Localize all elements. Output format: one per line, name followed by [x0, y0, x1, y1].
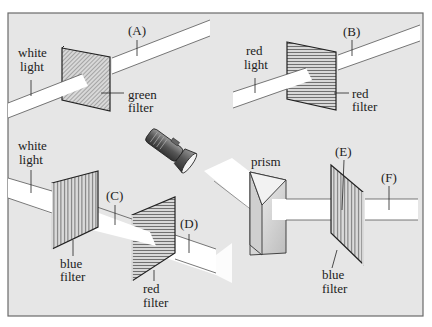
label-blue-filter-right-b: filter	[322, 281, 348, 296]
diagram-canvas: white light green filter (A) red light r…	[0, 0, 432, 327]
label-red-light-b: light	[244, 57, 268, 72]
label-red-filter-top-b: filter	[352, 99, 378, 114]
label-red-filter-bottom-b: filter	[143, 295, 169, 310]
beam-f	[365, 199, 418, 220]
marker-d: (D)	[180, 216, 198, 231]
label-white-light-1a: white	[18, 45, 47, 60]
label-green-filter-b: filter	[128, 100, 154, 115]
marker-b: (B)	[343, 24, 360, 39]
marker-c: (C)	[106, 188, 123, 203]
marker-a: (A)	[128, 23, 146, 38]
marker-f: (F)	[381, 170, 397, 185]
marker-e: (E)	[335, 144, 352, 159]
label-prism: prism	[251, 154, 281, 169]
label-red-filter-bottom-a: red	[143, 281, 160, 296]
label-white-light-3b: light	[19, 152, 43, 167]
label-blue-filter-left-b: filter	[60, 269, 86, 284]
label-white-light-3a: white	[18, 138, 47, 153]
label-white-light-1b: light	[20, 59, 44, 74]
label-blue-filter-right-a: blue	[322, 267, 345, 282]
label-red-light-a: red	[246, 43, 263, 58]
